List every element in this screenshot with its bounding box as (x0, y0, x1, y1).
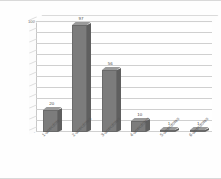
bar-chart-figure: No. of Cluster 0102030405060708090100 20… (0, 0, 221, 179)
bar-slot: 10 (124, 22, 153, 132)
bar-slot: 1 (183, 22, 212, 132)
bar-series: 2097561011 (36, 22, 212, 132)
bar-slot: 97 (65, 22, 94, 132)
bar-value-label: 56 (98, 61, 122, 66)
bar-value-label: 20 (40, 101, 64, 106)
plot-area: 2097561011 (36, 22, 212, 132)
x-axis-category-labels: 1-anecdote2-anecdotes3-anecdotes4-anecdo… (36, 134, 212, 178)
bar-front-face (72, 25, 87, 132)
bar-slot: 56 (95, 22, 124, 132)
bar[interactable] (72, 25, 87, 132)
bar-value-label: 10 (128, 112, 152, 117)
bar-slot: 1 (153, 22, 182, 132)
bar-slot: 20 (36, 22, 65, 132)
bar-value-label: 97 (69, 16, 93, 21)
